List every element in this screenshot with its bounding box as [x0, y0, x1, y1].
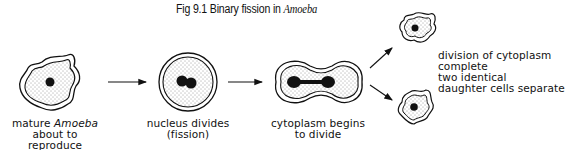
stage-3-label: cytoplasm begins to divide: [266, 118, 370, 140]
mature-amoeba-cell: [20, 54, 80, 110]
cytoplasm-dividing-cell: [276, 61, 363, 103]
stage-2-label: nucleus divides (fission): [140, 118, 236, 140]
stage-4-label-line4: daughter cells separate: [438, 83, 578, 94]
stage-2-label-line2: (fission): [140, 129, 236, 140]
arrow-up-icon: [370, 48, 392, 68]
arrow-down-icon: [370, 85, 392, 100]
stage-1-label-line2: about to reproduce: [6, 129, 104, 150]
daughter-cell-top: [400, 13, 436, 42]
stage-1-label: mature Amoeba about to reproduce: [6, 118, 104, 150]
stage-4-label: division of cytoplasm complete two ident…: [438, 50, 578, 94]
daughter-cell-bottom: [398, 90, 433, 124]
stage-3-label-line2: to divide: [266, 129, 370, 140]
nucleus-dividing-cell: [159, 53, 217, 111]
